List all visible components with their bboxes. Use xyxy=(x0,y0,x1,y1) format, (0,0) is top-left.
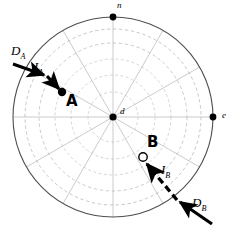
diagram-canvas: n e d A B DA IA DB IB xyxy=(0,0,241,232)
ray-A-internal-arrow xyxy=(47,76,59,89)
ray-B-incoming-subscript: B xyxy=(201,204,206,213)
point-B-label: B xyxy=(147,135,158,150)
ray-B-internal-label: IB xyxy=(161,163,170,180)
ray-A-internal-subscript: A xyxy=(38,68,43,77)
ray-B-incoming-symbol: D xyxy=(192,195,201,210)
east-point-label: e xyxy=(222,111,226,120)
east-point-dot xyxy=(210,114,217,121)
ray-A-internal-label: IA xyxy=(34,60,43,77)
ray-B-internal-subscript: B xyxy=(165,171,170,180)
ray-B-incoming-label: DB xyxy=(192,196,206,213)
ray-A-incoming-subscript: A xyxy=(20,52,25,61)
point-A-label: A xyxy=(66,94,78,109)
center-dot xyxy=(109,113,116,120)
point-B-marker xyxy=(139,153,147,161)
ray-A-incoming-symbol: D xyxy=(11,43,20,58)
ray-A-incoming-label: DA xyxy=(11,44,25,61)
point-A-marker xyxy=(58,88,66,96)
north-pole-dot xyxy=(110,14,117,21)
grid-spoke xyxy=(63,117,113,204)
north-pole-label: n xyxy=(117,1,122,10)
center-label: d xyxy=(120,107,125,116)
